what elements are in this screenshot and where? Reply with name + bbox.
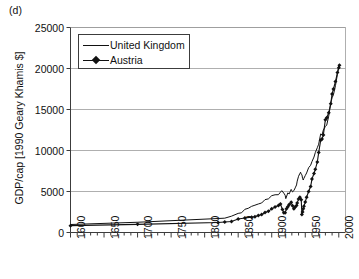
x-tick-label: 1750 bbox=[176, 215, 188, 238]
x-tick-label: 2000 bbox=[343, 215, 355, 238]
x-tick-label: 1850 bbox=[243, 215, 255, 238]
legend-entry-austria: Austria bbox=[83, 52, 143, 67]
figure-panel-d: (d) GDP/cap [1990 Geary Khamis $] 050001… bbox=[0, 0, 359, 279]
x-tick-label: 1700 bbox=[142, 215, 154, 238]
x-tick-label: 1900 bbox=[276, 215, 288, 238]
x-tick-label: 1650 bbox=[109, 215, 121, 238]
x-tick-label: 1950 bbox=[310, 215, 322, 238]
legend-diamond-marker-icon bbox=[83, 54, 109, 66]
x-tick-label: 1600 bbox=[75, 215, 87, 238]
legend-label-united-kingdom: United Kingdom bbox=[109, 39, 185, 51]
x-tick-label: 1800 bbox=[209, 215, 221, 238]
legend: United Kingdom Austria bbox=[78, 34, 190, 69]
legend-entry-united-kingdom: United Kingdom bbox=[83, 37, 185, 52]
legend-label-austria: Austria bbox=[109, 54, 143, 66]
legend-line-key-icon bbox=[83, 39, 109, 51]
